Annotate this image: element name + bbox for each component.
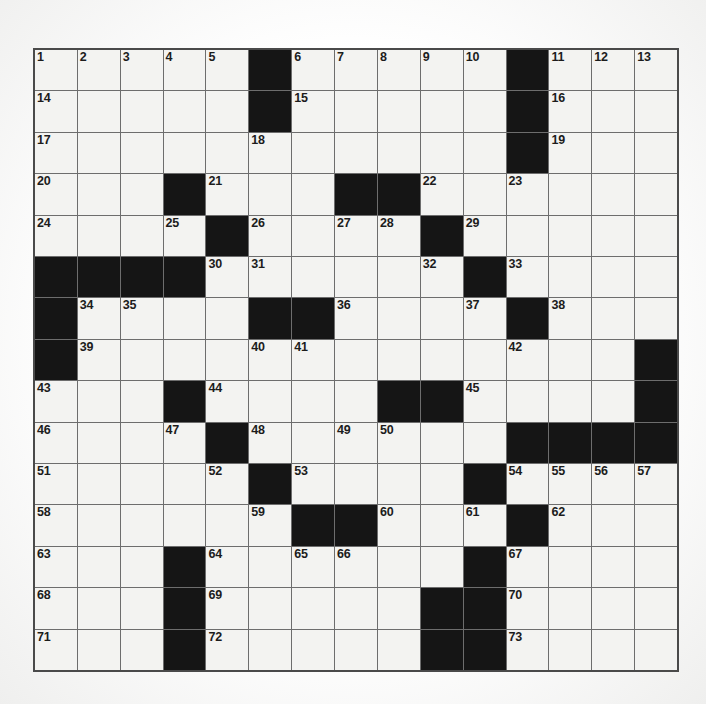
grid-cell[interactable]: [592, 174, 634, 214]
grid-cell[interactable]: [121, 216, 163, 256]
grid-cell[interactable]: 57: [635, 464, 677, 504]
grid-cell[interactable]: 43: [35, 381, 77, 421]
grid-cell[interactable]: 23: [507, 174, 549, 214]
grid-cell[interactable]: 22: [421, 174, 463, 214]
grid-cell[interactable]: [78, 505, 120, 545]
grid-cell[interactable]: [249, 630, 291, 670]
grid-cell[interactable]: 45: [464, 381, 506, 421]
grid-cell[interactable]: [121, 464, 163, 504]
grid-cell[interactable]: 47: [164, 423, 206, 463]
grid-cell[interactable]: [78, 91, 120, 131]
grid-cell[interactable]: [335, 340, 377, 380]
grid-cell[interactable]: [507, 216, 549, 256]
grid-cell[interactable]: [592, 505, 634, 545]
grid-cell[interactable]: [592, 216, 634, 256]
grid-cell[interactable]: 42: [507, 340, 549, 380]
grid-cell[interactable]: [378, 257, 420, 297]
grid-cell[interactable]: [249, 547, 291, 587]
grid-cell[interactable]: [592, 298, 634, 338]
grid-cell[interactable]: [121, 91, 163, 131]
grid-cell[interactable]: 36: [335, 298, 377, 338]
grid-cell[interactable]: [592, 91, 634, 131]
grid-cell[interactable]: [292, 381, 334, 421]
grid-cell[interactable]: [635, 216, 677, 256]
grid-cell[interactable]: [249, 381, 291, 421]
grid-cell[interactable]: [78, 464, 120, 504]
grid-cell[interactable]: [292, 174, 334, 214]
grid-cell[interactable]: [78, 381, 120, 421]
grid-cell[interactable]: [464, 423, 506, 463]
grid-cell[interactable]: 58: [35, 505, 77, 545]
grid-cell[interactable]: [121, 547, 163, 587]
grid-cell[interactable]: [121, 133, 163, 173]
grid-cell[interactable]: 15: [292, 91, 334, 131]
grid-cell[interactable]: 54: [507, 464, 549, 504]
grid-cell[interactable]: [121, 505, 163, 545]
grid-cell[interactable]: 13: [635, 50, 677, 90]
grid-cell[interactable]: [164, 91, 206, 131]
grid-cell[interactable]: [635, 588, 677, 628]
grid-cell[interactable]: [78, 216, 120, 256]
grid-cell[interactable]: [592, 340, 634, 380]
grid-cell[interactable]: [635, 547, 677, 587]
grid-cell[interactable]: 49: [335, 423, 377, 463]
grid-cell[interactable]: 41: [292, 340, 334, 380]
grid-cell[interactable]: [635, 298, 677, 338]
grid-cell[interactable]: [592, 547, 634, 587]
grid-cell[interactable]: [206, 133, 248, 173]
grid-cell[interactable]: [592, 133, 634, 173]
grid-cell[interactable]: 3: [121, 50, 163, 90]
grid-cell[interactable]: 4: [164, 50, 206, 90]
grid-cell[interactable]: [592, 630, 634, 670]
grid-cell[interactable]: [164, 340, 206, 380]
grid-cell[interactable]: [549, 588, 591, 628]
grid-cell[interactable]: 37: [464, 298, 506, 338]
grid-cell[interactable]: [421, 298, 463, 338]
grid-cell[interactable]: 39: [78, 340, 120, 380]
grid-cell[interactable]: [335, 257, 377, 297]
grid-cell[interactable]: 6: [292, 50, 334, 90]
grid-cell[interactable]: [292, 630, 334, 670]
grid-cell[interactable]: [292, 257, 334, 297]
grid-cell[interactable]: [292, 423, 334, 463]
grid-cell[interactable]: 48: [249, 423, 291, 463]
grid-cell[interactable]: [635, 505, 677, 545]
grid-cell[interactable]: [635, 91, 677, 131]
grid-cell[interactable]: [635, 133, 677, 173]
grid-cell[interactable]: 28: [378, 216, 420, 256]
grid-cell[interactable]: [378, 630, 420, 670]
grid-cell[interactable]: [464, 91, 506, 131]
grid-cell[interactable]: [378, 588, 420, 628]
grid-cell[interactable]: 21: [206, 174, 248, 214]
grid-cell[interactable]: 30: [206, 257, 248, 297]
grid-cell[interactable]: [164, 464, 206, 504]
grid-cell[interactable]: [549, 381, 591, 421]
grid-cell[interactable]: [549, 340, 591, 380]
grid-cell[interactable]: 34: [78, 298, 120, 338]
grid-cell[interactable]: 32: [421, 257, 463, 297]
grid-cell[interactable]: 19: [549, 133, 591, 173]
grid-cell[interactable]: [335, 133, 377, 173]
grid-cell[interactable]: 38: [549, 298, 591, 338]
grid-cell[interactable]: 59: [249, 505, 291, 545]
grid-cell[interactable]: [464, 133, 506, 173]
grid-cell[interactable]: [335, 464, 377, 504]
grid-cell[interactable]: [121, 381, 163, 421]
grid-cell[interactable]: [164, 133, 206, 173]
grid-cell[interactable]: 55: [549, 464, 591, 504]
grid-cell[interactable]: [549, 547, 591, 587]
grid-cell[interactable]: [549, 216, 591, 256]
grid-cell[interactable]: [635, 174, 677, 214]
grid-cell[interactable]: [78, 133, 120, 173]
grid-cell[interactable]: [206, 340, 248, 380]
grid-cell[interactable]: 9: [421, 50, 463, 90]
grid-cell[interactable]: [464, 174, 506, 214]
grid-cell[interactable]: [78, 630, 120, 670]
grid-cell[interactable]: [121, 588, 163, 628]
grid-cell[interactable]: [635, 257, 677, 297]
grid-cell[interactable]: 24: [35, 216, 77, 256]
grid-cell[interactable]: [206, 91, 248, 131]
grid-cell[interactable]: [549, 630, 591, 670]
grid-cell[interactable]: [421, 547, 463, 587]
grid-cell[interactable]: 62: [549, 505, 591, 545]
